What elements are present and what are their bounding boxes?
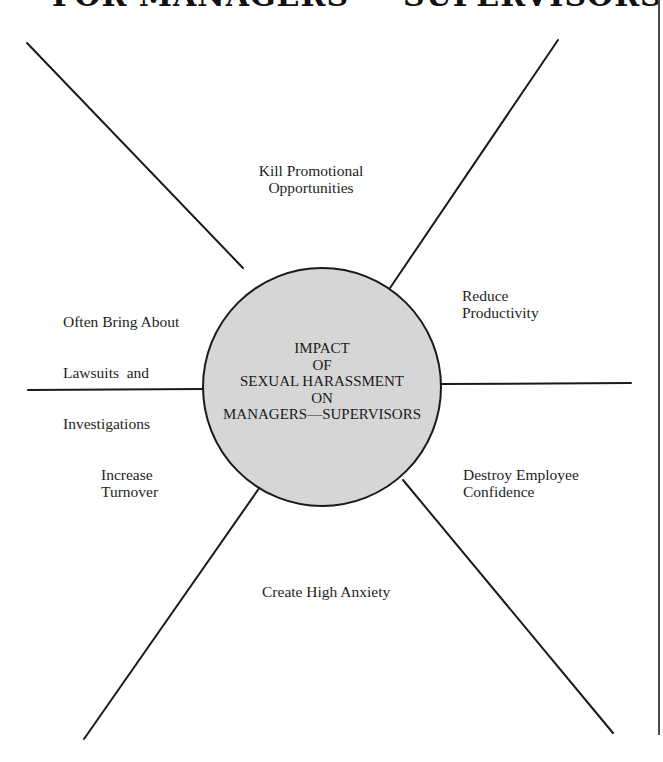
label-destroy-employee-confidence: Destroy Employee Confidence [463,466,579,500]
spoke-line-bottom-right [403,480,613,733]
label-kill-promotional-opportunities: Kill Promotional Opportunities [236,162,386,196]
spoke-line-right [441,383,631,384]
label-increase-turnover: Increase Turnover [101,466,158,500]
center-line-4: ON [202,390,442,407]
center-line-5: MANAGERS—SUPERVISORS [202,406,442,423]
label-create-high-anxiety: Create High Anxiety [262,583,390,600]
label-lawsuits-investigations: Often Bring About Lawsuits and Investiga… [63,279,179,449]
spoke-line-bottom-left [84,487,260,739]
label-reduce-productivity: Reduce Productivity [462,287,539,321]
spoke-line-top-left [27,43,243,268]
page-right-border [658,0,660,735]
center-line-3: SEXUAL HARASSMENT [202,373,442,390]
spoke-line-top-right [390,40,558,288]
center-line-1: IMPACT [202,340,442,357]
center-line-2: OF [202,357,442,374]
center-title: IMPACT OF SEXUAL HARASSMENT ON MANAGERS—… [202,340,442,423]
